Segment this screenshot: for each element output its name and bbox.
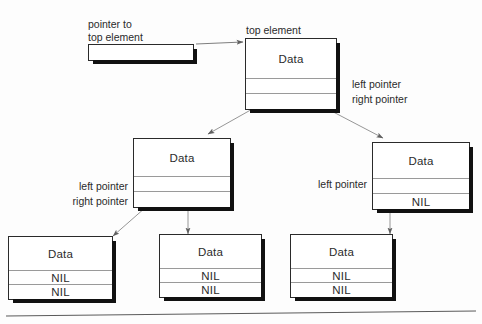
top-element-data-cell: Data (246, 39, 336, 79)
pointer-to-top-caption-line1: pointer to (88, 18, 143, 31)
middle-left-data-cell: Data (134, 139, 230, 177)
middle-left-right-pointer-cell[interactable] (134, 192, 230, 207)
leaf-3-data-cell: Data (291, 235, 392, 269)
mid-left-right-pointer-label: right pointer (38, 195, 128, 208)
middle-right-right-pointer-cell[interactable]: NIL (373, 194, 469, 209)
page-bottom-rule (6, 311, 476, 316)
pointer-to-top-caption: pointer to top element (88, 18, 143, 43)
leaf-3-left-pointer-cell[interactable]: NIL (291, 269, 392, 283)
pointer-to-top-box[interactable] (88, 44, 194, 61)
top-element-caption: top element (246, 24, 301, 37)
mid-left-left-pointer-label: left pointer (38, 180, 128, 193)
top-right-pointer-label: right pointer (352, 93, 407, 106)
leaf-node-2[interactable]: Data NIL NIL (159, 234, 262, 298)
edge-pointerbox-to-top (196, 42, 243, 44)
middle-left-left-pointer-cell[interactable] (134, 177, 230, 192)
leaf-2-left-pointer-cell[interactable]: NIL (160, 269, 261, 283)
middle-right-data-cell: Data (373, 143, 469, 179)
top-element-left-pointer-cell[interactable] (246, 79, 336, 94)
leaf-node-1[interactable]: Data NIL NIL (8, 236, 113, 300)
top-left-pointer-label: left pointer (352, 78, 401, 91)
top-element-right-pointer-cell[interactable] (246, 94, 336, 109)
leaf-2-right-pointer-cell[interactable]: NIL (160, 283, 261, 297)
leaf-1-right-pointer-cell[interactable]: NIL (9, 285, 112, 299)
middle-right-left-pointer-cell[interactable] (373, 179, 469, 194)
leaf-3-right-pointer-cell[interactable]: NIL (291, 283, 392, 297)
leaf-1-data-cell: Data (9, 237, 112, 271)
middle-left-node[interactable]: Data (133, 138, 231, 208)
top-element-node[interactable]: Data (245, 38, 337, 110)
leaf-node-3[interactable]: Data NIL NIL (290, 234, 393, 298)
mid-right-left-pointer-label: left pointer (277, 178, 367, 191)
leaf-1-left-pointer-cell[interactable]: NIL (9, 271, 112, 285)
leaf-2-data-cell: Data (160, 235, 261, 269)
pointer-to-top-caption-line2: top element (88, 31, 143, 44)
middle-right-node[interactable]: Data NIL (372, 142, 470, 210)
diagram-canvas: pointer to top element top element Data … (0, 0, 482, 324)
